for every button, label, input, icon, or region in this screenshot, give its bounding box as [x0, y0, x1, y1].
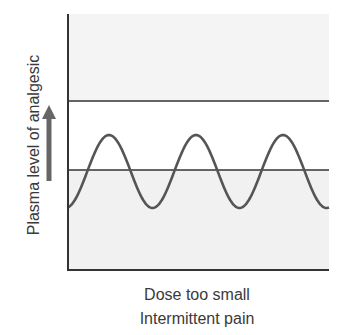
up-arrow-icon	[42, 105, 56, 181]
y-axis-label: Plasma level of analgesic	[25, 55, 43, 236]
chart-canvas	[0, 0, 361, 335]
region-below-lower	[68, 170, 329, 270]
caption-effect: Intermittent pain	[67, 310, 327, 328]
region-above-upper	[68, 14, 329, 101]
caption-dose: Dose too small	[67, 286, 327, 304]
